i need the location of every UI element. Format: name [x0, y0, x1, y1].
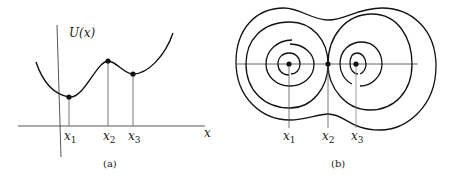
label-x1: x1 — [64, 129, 77, 145]
potential-curve — [36, 33, 173, 97]
label-x3: x3 — [128, 129, 141, 145]
point-x3 — [130, 71, 135, 76]
label-b-x3: x3 — [351, 129, 364, 145]
label-b-x2: x2 — [322, 129, 335, 145]
figure: U(x) x x1 x2 x3 (a) x1 x2 x3 — [0, 0, 452, 183]
point-x2 — [105, 58, 110, 63]
point-b-x2 — [325, 61, 330, 66]
y-axis — [57, 25, 61, 157]
y-axis-label: U(x) — [69, 26, 96, 40]
caption-a: (a) — [103, 158, 117, 169]
panel-b: x1 x2 x3 (b) — [236, 8, 436, 169]
label-x2: x2 — [103, 129, 116, 145]
panel-a: U(x) x x1 x2 x3 (a) — [18, 25, 211, 169]
caption-b: (b) — [331, 158, 345, 169]
point-b-x3 — [353, 61, 358, 66]
x-axis-label: x — [204, 126, 211, 140]
point-x1 — [66, 94, 71, 99]
label-b-x1: x1 — [283, 129, 296, 145]
point-b-x1 — [286, 61, 291, 66]
